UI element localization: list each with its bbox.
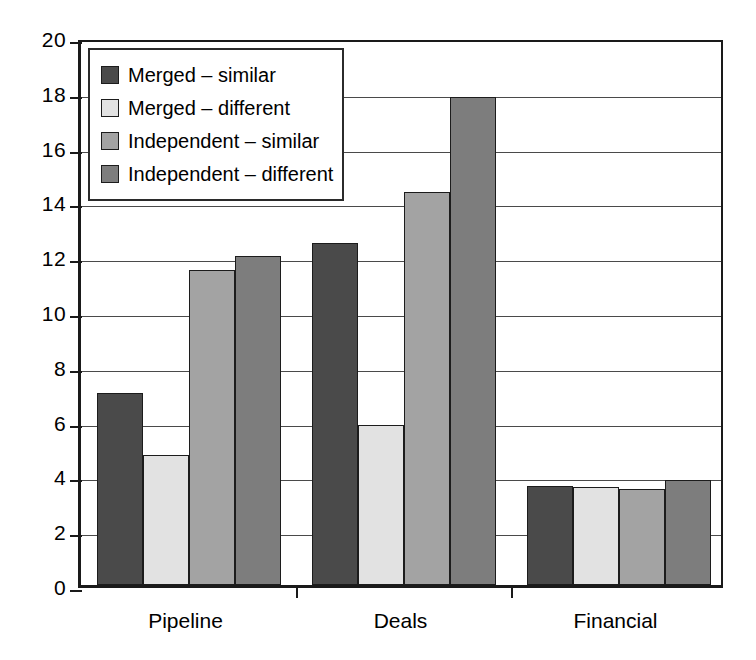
y-axis-tick-mark bbox=[70, 535, 82, 537]
y-axis-tick-label: 12 bbox=[18, 248, 66, 269]
bar bbox=[573, 487, 619, 585]
x-axis-tick-mark bbox=[296, 585, 298, 598]
x-axis-tick-label: Pipeline bbox=[148, 610, 223, 632]
legend-label: Merged – different bbox=[128, 98, 290, 118]
y-axis-tick-label: 20 bbox=[18, 29, 66, 50]
y-axis-tick-mark bbox=[70, 206, 82, 208]
y-axis-tick-labels: 02468101214161820 bbox=[18, 0, 66, 660]
y-axis-tick-label: 16 bbox=[18, 139, 66, 160]
bar bbox=[97, 393, 143, 585]
legend-swatch-icon bbox=[101, 99, 119, 117]
y-axis-tick-mark bbox=[70, 426, 82, 428]
legend-label: Independent – different bbox=[128, 164, 333, 184]
legend-label: Independent – similar bbox=[128, 131, 319, 151]
y-axis-tick-label: 6 bbox=[18, 413, 66, 434]
y-axis-tick-mark bbox=[70, 480, 82, 482]
gridline bbox=[81, 261, 721, 262]
legend-entry: Independent – different bbox=[101, 157, 330, 190]
y-axis-tick-mark bbox=[70, 152, 82, 154]
bar bbox=[235, 256, 281, 585]
y-axis-tick-mark bbox=[70, 590, 82, 592]
bar bbox=[665, 480, 711, 585]
gridline bbox=[81, 371, 721, 372]
gridline bbox=[81, 206, 721, 207]
bar bbox=[143, 455, 189, 585]
x-axis-tick-label: Financial bbox=[573, 610, 657, 632]
legend-entry: Merged – different bbox=[101, 91, 330, 124]
legend-entry: Merged – similar bbox=[101, 58, 330, 91]
bar bbox=[527, 486, 573, 585]
y-axis-tick-label: 4 bbox=[18, 467, 66, 488]
y-axis-tick-label: 2 bbox=[18, 522, 66, 543]
legend-swatch-icon bbox=[101, 66, 119, 84]
gridline bbox=[81, 316, 721, 317]
legend-label: Merged – similar bbox=[128, 65, 276, 85]
y-axis-tick-label: 10 bbox=[18, 303, 66, 324]
y-axis-tick-mark bbox=[70, 97, 82, 99]
bar bbox=[619, 489, 665, 585]
y-axis-tick-mark bbox=[70, 371, 82, 373]
legend-entry: Independent – similar bbox=[101, 124, 330, 157]
y-axis-tick-mark bbox=[70, 261, 82, 263]
y-axis-tick-mark bbox=[70, 316, 82, 318]
y-axis-tick-label: 14 bbox=[18, 193, 66, 214]
legend-swatch-icon bbox=[101, 132, 119, 150]
bar-chart: 02468101214161820 PipelineDealsFinancial… bbox=[0, 0, 756, 660]
y-axis-tick-label: 0 bbox=[18, 577, 66, 598]
x-axis-tick-label: Deals bbox=[374, 610, 428, 632]
y-axis-tick-mark bbox=[70, 42, 82, 44]
y-axis-tick-label: 18 bbox=[18, 84, 66, 105]
y-axis-tick-label: 8 bbox=[18, 358, 66, 379]
bar bbox=[450, 97, 496, 585]
bar bbox=[404, 192, 450, 585]
bar bbox=[358, 425, 404, 585]
bar bbox=[189, 270, 235, 585]
chart-legend: Merged – similarMerged – differentIndepe… bbox=[88, 48, 344, 201]
bar bbox=[312, 243, 358, 586]
x-axis-tick-mark bbox=[511, 585, 513, 598]
legend-swatch-icon bbox=[101, 165, 119, 183]
